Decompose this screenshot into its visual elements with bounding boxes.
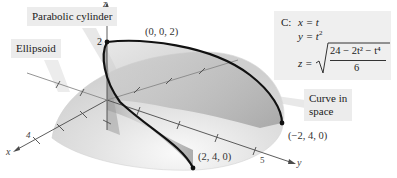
- point-back: [280, 121, 285, 126]
- y-axis-label: y: [297, 157, 301, 168]
- callout-ellipsoid: Ellipsoid: [11, 39, 61, 58]
- z-tick-label: 2: [97, 36, 102, 47]
- point-front: [191, 166, 196, 171]
- x-tick-label: 4: [26, 130, 31, 140]
- callout-parabolic-cylinder: Parabolic cylinder: [27, 7, 117, 26]
- y-equation-exponent: 2: [319, 29, 323, 37]
- callout-curve-in-space: Curve in space: [304, 89, 352, 121]
- curve-name: C:: [281, 16, 291, 28]
- fraction-bar: [330, 60, 386, 61]
- z-equation-lhs: z =: [298, 57, 312, 69]
- point-label-back: (−2, 4, 0): [288, 130, 327, 141]
- callout-curve-line1: Curve in: [309, 92, 347, 105]
- point-top: [105, 40, 110, 45]
- y-equation-base: y = t: [298, 30, 319, 42]
- z-axis-label: z: [103, 0, 107, 9]
- x-equation: x = t: [298, 16, 319, 28]
- y-equation: y = t2: [298, 29, 322, 42]
- point-label-front: (2, 4, 0): [198, 151, 231, 162]
- x-axis-arrow: [13, 146, 20, 152]
- y-axis-arrow: [288, 159, 296, 164]
- y-tick-label: 5: [260, 155, 265, 165]
- x-axis-label: x: [6, 146, 10, 157]
- point-label-top: (0, 0, 2): [145, 26, 178, 37]
- callout-curve-line2: space: [309, 105, 347, 118]
- z-numerator: 24 − 2t² − t⁴: [330, 45, 381, 56]
- z-denominator: 6: [354, 62, 359, 73]
- equation-box: C: x = t y = t2 z = 24 − 2t² − t⁴ 6: [274, 11, 391, 80]
